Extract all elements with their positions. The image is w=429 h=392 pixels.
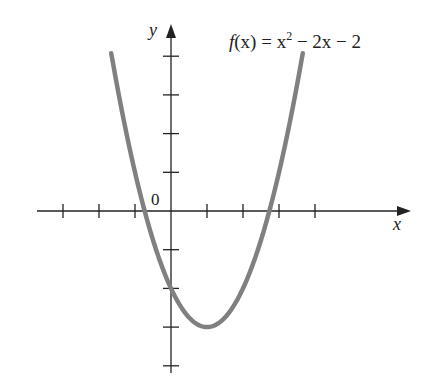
function-graph: f(x) = x2 − 2x − 2 x y 0 <box>0 0 429 392</box>
function-label: f(x) = x2 − 2x − 2 <box>229 29 361 53</box>
x-axis-label: x <box>392 214 401 234</box>
parabola-curve <box>111 53 303 327</box>
y-axis-arrow-icon <box>166 24 176 38</box>
y-axis-label: y <box>147 20 157 40</box>
origin-label: 0 <box>151 190 160 209</box>
